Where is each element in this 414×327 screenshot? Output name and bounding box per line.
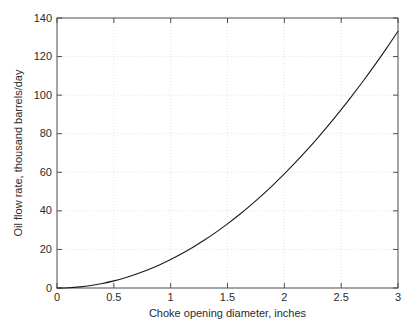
y-axis-title: Oil flow rate, thousand barrels/day <box>12 69 24 236</box>
x-tick-label: 1.5 <box>220 291 235 303</box>
chart-canvas: 0 20 40 60 80 100 120 140 0 0.5 1 1.5 2 … <box>0 0 414 327</box>
x-tick-label: 2.5 <box>334 291 349 303</box>
y-tick-label: 140 <box>34 12 52 24</box>
y-tick-label: 60 <box>40 166 52 178</box>
x-tick-label: 3 <box>395 291 401 303</box>
y-tick-label: 100 <box>34 89 52 101</box>
x-tick-label: 0 <box>54 291 60 303</box>
y-tick-label: 0 <box>46 282 52 294</box>
x-tick-label: 0.5 <box>106 291 121 303</box>
x-tick-label: 1 <box>168 291 174 303</box>
y-tick-label: 20 <box>40 243 52 255</box>
x-tick-label: 2 <box>281 291 287 303</box>
x-tick-labels: 0 0.5 1 1.5 2 2.5 3 <box>54 291 401 303</box>
chart-figure: 0 20 40 60 80 100 120 140 0 0.5 1 1.5 2 … <box>0 0 414 327</box>
y-tick-labels: 0 20 40 60 80 100 120 140 <box>34 12 52 294</box>
y-tick-label: 40 <box>40 204 52 216</box>
y-tick-label: 80 <box>40 127 52 139</box>
y-tick-label: 120 <box>34 50 52 62</box>
x-axis-title: Choke opening diameter, inches <box>149 307 307 319</box>
